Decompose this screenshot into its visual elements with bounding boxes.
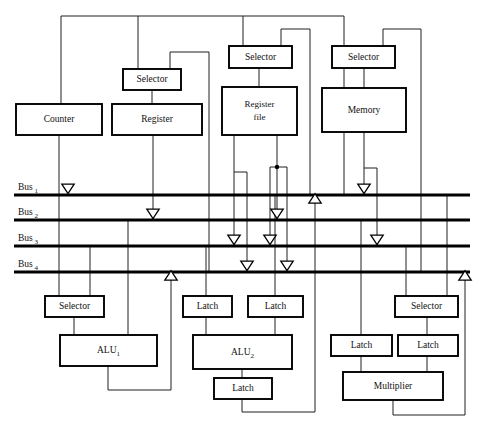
unit-register-file[interactable]: Registerfile	[222, 87, 297, 135]
unit-label-selector-rf: Selector	[245, 52, 277, 62]
unit-label-register-file: Register	[245, 99, 275, 109]
unit-register[interactable]: Register	[112, 104, 202, 135]
unit-latch-mul-a[interactable]: Latch	[331, 335, 392, 356]
datapath-diagram: CounterSelectorRegisterSelectorRegisterf…	[0, 0, 481, 430]
bus-label-2: Bus 2	[18, 207, 39, 220]
unit-label-register: Register	[141, 114, 173, 124]
arrow-memory-bus3-icon	[371, 235, 383, 245]
unit-label-selector-mul: Selector	[411, 301, 443, 311]
arrow-counter-bus1-icon	[62, 184, 74, 194]
unit-label-latch-mul-a: Latch	[351, 340, 373, 350]
arrow-memory-bus1-icon	[358, 184, 370, 194]
diagram-canvas: CounterSelectorRegisterSelectorRegisterf…	[0, 0, 481, 430]
bus-label-3: Bus 3	[18, 233, 39, 246]
unit-label-selector-mem: Selector	[348, 52, 380, 62]
arrow-rf-b-bus4-icon	[281, 261, 293, 271]
arrow-register-bus2-icon	[147, 209, 159, 219]
unit-label-latch-mul-b: Latch	[417, 340, 439, 350]
unit-latch-alu2-a[interactable]: Latch	[183, 296, 232, 317]
unit-label-selector-reg: Selector	[136, 74, 168, 84]
unit-label-latch-alu2-b: Latch	[265, 301, 287, 311]
unit-alu1[interactable]: ALU1	[60, 335, 157, 366]
boxes-layer: CounterSelectorRegisterSelectorRegisterf…	[16, 46, 458, 400]
junctions-layer	[275, 165, 279, 169]
unit-multiplier[interactable]: Multiplier	[343, 372, 443, 400]
arrows-layer	[62, 184, 471, 280]
junction-dot-junction-rf-out-b	[275, 165, 279, 169]
unit-latch-alu2-out[interactable]: Latch	[214, 378, 272, 399]
arrow-rf-b-bus2-icon	[271, 209, 283, 219]
wire-memory-out-branch	[364, 168, 377, 246]
unit-label-latch-alu2-a: Latch	[197, 301, 219, 311]
unit-latch-mul-b[interactable]: Latch	[398, 335, 458, 356]
bus-label-4: Bus 4	[18, 259, 39, 272]
arrow-rf-a-bus3-icon	[228, 235, 240, 245]
wire-rf-out-a-branch	[234, 172, 247, 272]
unit-label-counter: Counter	[44, 114, 75, 124]
unit-label-memory: Memory	[348, 105, 381, 115]
unit-latch-alu2-b[interactable]: Latch	[248, 296, 303, 317]
unit-counter[interactable]: Counter	[16, 104, 102, 135]
arrow-rf-a-bus4-icon	[241, 261, 253, 271]
unit-label-selector-alu1: Selector	[59, 301, 91, 311]
unit-selector-mul[interactable]: Selector	[395, 296, 458, 317]
unit-selector-alu1[interactable]: Selector	[45, 296, 104, 317]
unit-box-register-file	[222, 87, 297, 135]
unit-selector-rf[interactable]: Selector	[229, 46, 292, 68]
bus-label-1: Bus 1	[18, 182, 39, 195]
unit-label2-register-file: file	[254, 112, 266, 122]
arrow-rf-b-bus3-icon	[264, 235, 276, 245]
wire-alu1-out	[108, 272, 171, 390]
unit-label-latch-alu2-out: Latch	[232, 383, 254, 393]
unit-alu2[interactable]: ALU2	[193, 335, 292, 369]
unit-selector-reg[interactable]: Selector	[123, 69, 181, 90]
unit-selector-mem[interactable]: Selector	[332, 46, 395, 68]
unit-label-multiplier: Multiplier	[374, 381, 413, 391]
unit-memory[interactable]: Memory	[322, 88, 406, 132]
